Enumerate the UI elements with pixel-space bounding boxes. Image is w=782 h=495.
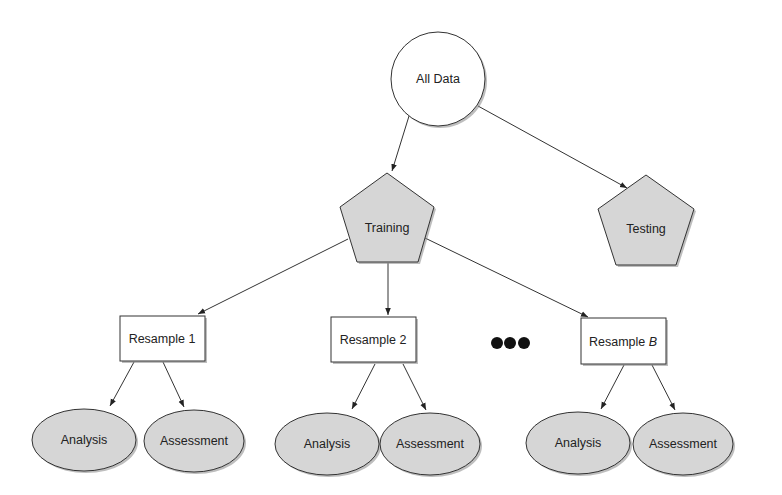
testing-label: Testing [626, 222, 666, 236]
node-training: Training [340, 173, 436, 264]
analysis-b-label: Analysis [555, 436, 602, 450]
resampling-diagram: All Data Training Testing Resample 1 Res… [0, 0, 782, 495]
dot-icon [518, 337, 530, 349]
assessment-1-label: Assessment [160, 434, 229, 448]
node-assessment-2: Assessment [380, 413, 482, 477]
resample-2-label: Resample 2 [340, 333, 407, 347]
node-resample-1: Resample 1 [120, 316, 207, 363]
edge-resample2-analysis [352, 364, 375, 409]
training-label: Training [365, 221, 410, 235]
resample-1-label: Resample 1 [129, 332, 196, 346]
edge-resample1-assessment [163, 362, 184, 407]
edge-alldata-testing [478, 106, 627, 188]
assessment-2-label: Assessment [396, 437, 465, 451]
node-resample-2: Resample 2 [331, 317, 418, 364]
node-assessment-1: Assessment [144, 410, 246, 474]
all-data-label: All Data [416, 72, 460, 86]
resample-b-label: Resample B [589, 335, 657, 349]
analysis-2-label: Analysis [304, 437, 351, 451]
ellipsis-dots [491, 337, 530, 349]
edge-training-resample1 [198, 239, 348, 314]
edge-training-resampleb [425, 238, 588, 317]
node-analysis-1: Analysis [32, 409, 138, 473]
node-assessment-b: Assessment [633, 413, 735, 477]
edge-resampleb-analysis [601, 365, 624, 409]
dot-icon [504, 337, 516, 349]
node-analysis-b: Analysis [526, 412, 632, 476]
edge-resampleb-assessment [652, 365, 675, 410]
assessment-b-label: Assessment [649, 437, 718, 451]
edge-resample1-analysis [110, 362, 134, 406]
node-resample-b: Resample B [581, 318, 668, 366]
node-all-data: All Data [391, 32, 487, 128]
dot-icon [491, 337, 503, 349]
resample-b-prefix: Resample [589, 335, 649, 349]
node-analysis-2: Analysis [275, 413, 381, 477]
edge-alldata-training [392, 116, 409, 171]
resample-b-italic: B [649, 335, 657, 349]
edge-resample2-assessment [403, 364, 426, 410]
analysis-1-label: Analysis [61, 433, 108, 447]
node-testing: Testing [598, 175, 696, 267]
